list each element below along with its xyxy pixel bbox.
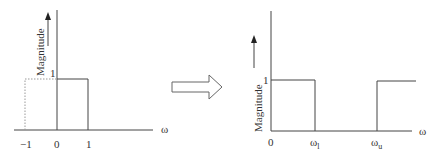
left-x-axis-label: ω — [161, 123, 168, 135]
left-tick-neg1: −1 — [20, 138, 32, 150]
left-y-axis-label: Magnitude — [34, 28, 46, 76]
left-arrowhead-icon — [45, 12, 51, 20]
left-negative-freq-dashed — [25, 79, 57, 130]
right-passband-low — [271, 80, 315, 131]
right-magnitude-one: 1 — [263, 74, 269, 86]
right-passband-high — [377, 81, 416, 131]
right-y-axis-label: Magnitude — [252, 84, 264, 132]
right-arrow-outline-icon — [172, 75, 222, 99]
left-magnitude-one: 1 — [50, 67, 56, 79]
left-magnitude-response — [57, 79, 88, 130]
left-tick-1: 1 — [86, 138, 92, 150]
lowpass-panel: Magnitude 1 ω −1 0 1 — [14, 10, 168, 150]
bandstop-panel: Magnitude 1 ω 0 ωl ωu — [251, 11, 426, 151]
right-tick-omega-u: ωu — [371, 136, 382, 151]
right-x-axis-label: ω — [419, 125, 426, 137]
right-tick-0: 0 — [268, 136, 274, 148]
right-tick-omega-l: ωl — [310, 136, 320, 151]
right-arrowhead-icon — [251, 35, 257, 43]
left-tick-0: 0 — [54, 138, 60, 150]
diagram-canvas: Magnitude 1 ω −1 0 1 Magnitude 1 ω 0 ωl … — [0, 0, 437, 152]
